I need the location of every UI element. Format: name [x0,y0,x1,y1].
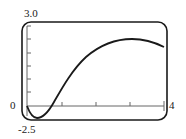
y-min-label: -2.5 [18,124,35,135]
x-min-label: 0 [10,100,16,111]
graph-screen [0,0,186,139]
x-max-label: 4 [169,100,175,111]
y-axis-ticks [27,26,31,92]
calculator-frame [22,22,167,120]
y-max-label: 3.0 [24,8,38,19]
